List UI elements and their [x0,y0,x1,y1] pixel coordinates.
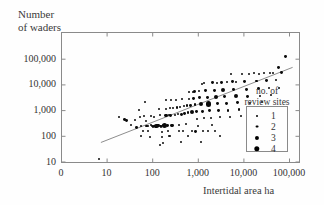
legend-entry-label: 3 [271,133,276,143]
legend-dot-icon [255,135,259,139]
scatter-point [195,110,198,113]
scatter-point [166,124,169,127]
scatter-point [149,136,151,138]
scatter-point [199,102,203,106]
scatter-point [216,102,219,105]
legend-entry: 2 [247,121,289,132]
y-tick-label: 10,000 [2,78,56,89]
scatter-point [98,158,100,160]
scatter-point [174,114,176,116]
scatter-point [213,89,216,92]
legend-dot-icon [256,125,259,128]
scatter-point [179,106,181,108]
scatter-point [202,130,204,132]
scatter-point [206,96,209,99]
scatter-point [265,79,268,82]
y-tick-label: 1,000 [2,104,56,115]
chart-root: Number of waders 101001,00010,000100,000… [0,0,324,205]
scatter-point [208,109,211,112]
x-axis-title: Intertidal area ha [203,185,274,196]
legend-entry: 3 [247,132,289,143]
legend-entry-label: 1 [271,111,276,121]
scatter-point [169,114,172,117]
scatter-point [142,130,144,132]
scatter-point [135,126,138,129]
scatter-point [214,130,216,132]
scatter-point [190,110,194,114]
legend-title: no. of review sites [232,86,302,107]
scatter-point [165,99,167,101]
y-tick-label: 10 [2,156,56,167]
scatter-point [200,141,202,143]
scatter-point [161,131,163,133]
scatter-point [180,113,183,116]
y-tick-label: 100,000 [2,53,56,64]
scatter-point [220,81,223,84]
scatter-point [134,119,136,121]
scatter-point [210,117,212,119]
scatter-point [206,101,211,106]
scatter-point [144,101,146,103]
x-tick-label: 100,000 [259,167,319,178]
scatter-point [185,123,187,125]
scatter-point [143,115,145,117]
scatter-point [194,130,197,133]
legend-dot-icon [254,146,259,151]
scatter-point [216,82,218,84]
scatter-point [277,66,280,69]
scatter-point [229,116,231,118]
legend-entry-label: 2 [271,122,276,132]
scatter-point [130,124,132,126]
legend-entry: 4 [247,143,289,154]
scatter-point [178,124,180,126]
scatter-point [189,104,192,107]
y-tick-label: 100 [2,130,56,141]
scatter-point [269,72,271,74]
scatter-point [188,98,190,100]
scatter-point [145,120,147,122]
scatter-point [158,108,160,110]
scatter-point [201,110,204,113]
scatter-point [225,102,228,105]
scatter-point [248,73,250,75]
scatter-point [171,124,174,127]
scatter-point [165,108,167,110]
scatter-point [153,116,155,118]
legend-box: 1234 [246,106,288,152]
scatter-point [272,72,274,74]
scatter-point [138,109,140,111]
scatter-point [147,125,149,127]
legend-dot-icon [256,115,258,117]
scatter-point [169,135,171,137]
scatter-point [275,79,277,81]
legend-entry-label: 4 [271,144,276,154]
scatter-point [211,124,213,126]
legend-entry: 1 [247,110,289,121]
scatter-point [258,73,260,75]
scatter-point [150,115,152,117]
scatter-point [178,130,180,132]
scatter-point [159,144,161,146]
scatter-point [183,112,186,115]
scatter-point [169,107,171,109]
scatter-point [197,125,199,127]
scatter-point [243,80,246,83]
scatter-point [170,99,172,101]
